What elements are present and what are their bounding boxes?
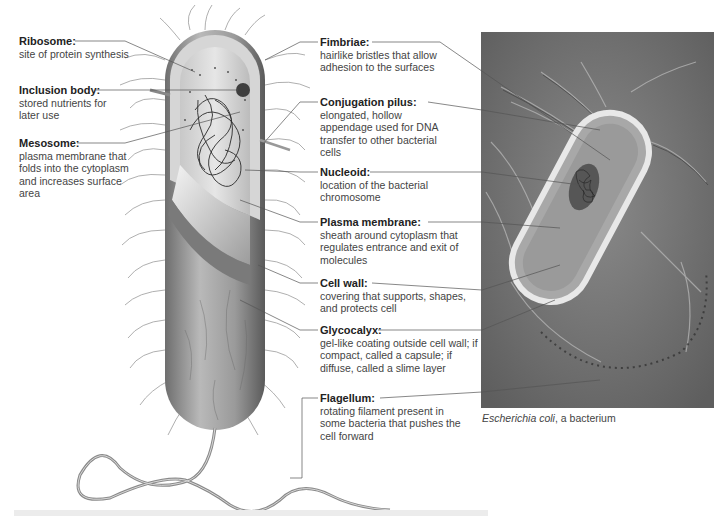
label-glycocalyx: Glycocalyx: gel-like coating outside cel… — [320, 324, 480, 374]
label-desc: sheath around cytoplasm that regulates e… — [320, 229, 470, 267]
label-title: Flagellum: — [320, 392, 375, 404]
label-nucleoid: Nucleoid: location of the bacterial chro… — [320, 166, 460, 204]
label-plasma-membrane: Plasma membrane: sheath around cytoplasm… — [320, 216, 470, 266]
label-title: Conjugation pilus: — [320, 96, 417, 108]
label-flagellum: Flagellum: rotating filament present in … — [320, 392, 470, 442]
label-title: Fimbriae: — [320, 36, 370, 48]
label-desc: plasma membrane that folds into the cyto… — [19, 150, 131, 200]
label-fimbriae: Fimbriae: hairlike bristles that allow a… — [320, 36, 438, 74]
label-title: Nucleoid: — [320, 166, 370, 178]
label-desc: hairlike bristles that allow adhesion to… — [320, 49, 438, 74]
label-ribosome: Ribosome: site of protein synthesis — [19, 35, 159, 60]
label-desc: site of protein synthesis — [19, 48, 159, 61]
caption-rest: , a bacterium — [555, 412, 616, 424]
label-mesosome: Mesosome: plasma membrane that folds int… — [19, 137, 131, 200]
label-desc: gel-like coating outside cell wall; if c… — [320, 337, 480, 375]
caption-species: Escherichia coli — [482, 412, 555, 424]
label-title: Glycocalyx: — [320, 324, 382, 336]
bottom-divider — [14, 510, 488, 516]
label-desc: covering that supports, shapes, and prot… — [320, 290, 470, 315]
label-inclusion-body: Inclusion body: stored nutrients for lat… — [19, 84, 124, 122]
label-title: Plasma membrane: — [320, 216, 421, 228]
label-title: Inclusion body: — [19, 84, 100, 96]
label-desc: elongated, hollow appendage used for DNA… — [320, 109, 452, 159]
label-desc: stored nutrients for later use — [19, 97, 124, 122]
label-title: Ribosome: — [19, 35, 76, 47]
label-cell-wall: Cell wall: covering that supports, shape… — [320, 277, 470, 315]
label-title: Cell wall: — [320, 277, 368, 289]
photo-caption: Escherichia coli, a bacterium — [482, 412, 616, 424]
label-desc: location of the bacterial chromosome — [320, 179, 460, 204]
label-title: Mesosome: — [19, 137, 80, 149]
label-conjugation-pilus: Conjugation pilus: elongated, hollow app… — [320, 96, 452, 159]
label-desc: rotating filament present in some bacter… — [320, 405, 470, 443]
